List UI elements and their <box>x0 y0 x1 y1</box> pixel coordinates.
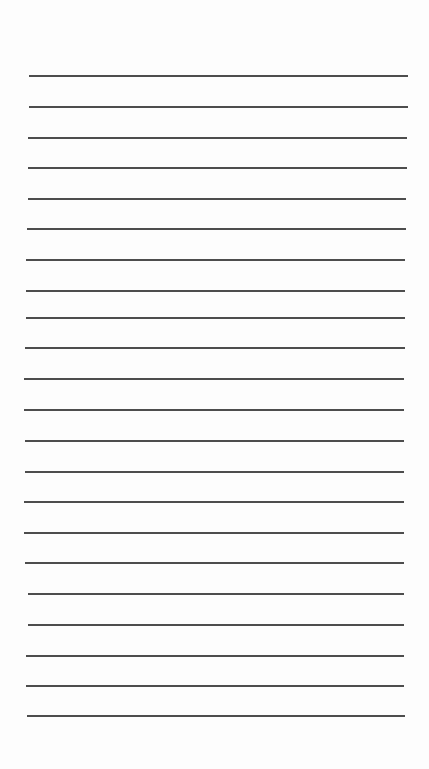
ruled-line <box>28 624 404 626</box>
ruled-line <box>28 198 406 200</box>
ruled-line <box>24 409 404 411</box>
ruled-line <box>24 501 404 503</box>
ruled-line <box>24 378 404 380</box>
ruled-line <box>24 532 404 534</box>
ruled-line <box>28 137 407 139</box>
ruled-line <box>26 290 405 292</box>
ruled-line <box>25 440 404 442</box>
ruled-line <box>26 259 405 261</box>
ruled-line <box>29 75 408 77</box>
ruled-line <box>25 562 404 564</box>
ruled-line <box>29 106 408 108</box>
ruled-line <box>28 593 404 595</box>
ruled-line <box>26 655 404 657</box>
ruled-line <box>25 471 404 473</box>
ruled-line <box>26 317 405 319</box>
ruled-line <box>25 347 405 349</box>
ruled-line <box>28 167 407 169</box>
lined-paper-page <box>0 0 429 769</box>
ruled-line <box>27 715 405 717</box>
ruled-line <box>27 228 406 230</box>
ruled-line <box>26 685 404 687</box>
